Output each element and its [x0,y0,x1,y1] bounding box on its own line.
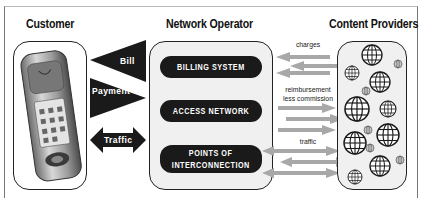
globe-icon [344,45,404,184]
content-provider-globes [0,0,422,202]
